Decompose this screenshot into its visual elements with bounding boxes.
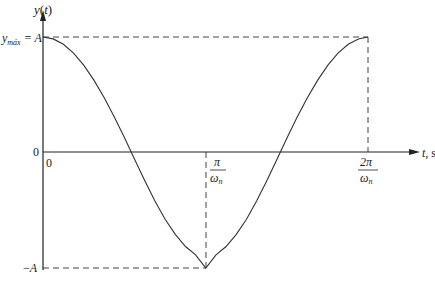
x-zero-label: 0: [46, 156, 52, 170]
x-axis-label: t, s: [422, 146, 435, 160]
two-pi-tick-num: 2π: [360, 155, 373, 169]
neg-a-label: −A: [23, 261, 38, 275]
cosine-diagram: y(t) ymáx = A 0 0 −A π ωn 2π ωn t, s: [0, 0, 435, 284]
pi-tick-den: ωn: [210, 171, 222, 186]
y-zero-label: 0: [33, 145, 39, 159]
two-pi-tick-den: ωn: [360, 171, 372, 186]
ymax-label: ymáx = A: [1, 31, 43, 47]
y-axis-label: y(t): [32, 2, 52, 17]
pi-tick-num: π: [214, 155, 221, 169]
x-axis-arrow-icon: [409, 149, 420, 155]
